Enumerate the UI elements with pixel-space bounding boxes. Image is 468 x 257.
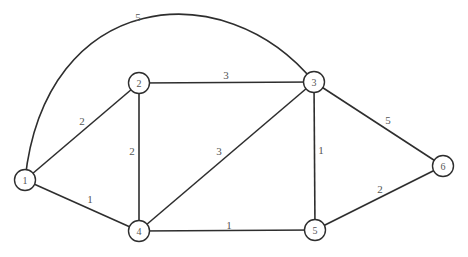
edge-weight-3-4: 3 (216, 145, 222, 157)
node-2: 2 (129, 73, 150, 94)
node-5: 5 (305, 220, 326, 241)
edge-5-6 (315, 166, 443, 230)
edge-1-2 (25, 83, 139, 180)
node-label: 1 (23, 175, 28, 186)
edge-3-5 (314, 82, 315, 230)
edge-weight-3-6: 5 (385, 114, 391, 126)
node-label: 2 (137, 78, 142, 89)
edge-3-6 (314, 82, 443, 166)
graph-diagram: 5213231512 123456 (0, 0, 468, 257)
edge-2-3 (139, 82, 314, 83)
edge-1-3 (25, 14, 314, 180)
edge-weight-4-5: 1 (226, 219, 232, 231)
node-label: 5 (313, 225, 318, 236)
nodes-layer: 123456 (15, 72, 454, 242)
edge-labels-layer: 5213231512 (79, 11, 391, 231)
node-3: 3 (304, 72, 325, 93)
node-label: 4 (137, 226, 142, 237)
edge-weight-2-4: 2 (129, 145, 135, 157)
edge-3-4 (139, 82, 314, 231)
edge-1-4 (25, 180, 139, 231)
node-label: 6 (441, 161, 446, 172)
edge-weight-2-3: 3 (223, 69, 229, 81)
edge-weight-1-2: 2 (79, 115, 85, 127)
edge-weight-5-6: 2 (377, 183, 383, 195)
node-4: 4 (129, 221, 150, 242)
edge-weight-1-3: 5 (135, 11, 141, 23)
node-1: 1 (15, 170, 36, 191)
node-label: 3 (312, 77, 317, 88)
node-6: 6 (433, 156, 454, 177)
edge-weight-1-4: 1 (87, 193, 93, 205)
edge-weight-3-5: 1 (318, 144, 324, 156)
